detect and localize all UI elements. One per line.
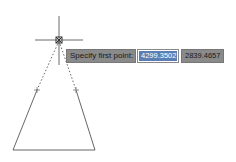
y-coordinate-input[interactable]: 2839.4657 bbox=[181, 49, 224, 63]
grip-right-icon bbox=[73, 87, 79, 93]
dynamic-input-prompt: Specify first point: bbox=[66, 49, 136, 63]
grip-left-icon bbox=[34, 87, 40, 93]
x-coordinate-input[interactable]: 4299.3502 bbox=[137, 49, 179, 63]
drawing-canvas[interactable] bbox=[0, 0, 236, 162]
x-coordinate-value: 4299.3502 bbox=[139, 51, 177, 61]
